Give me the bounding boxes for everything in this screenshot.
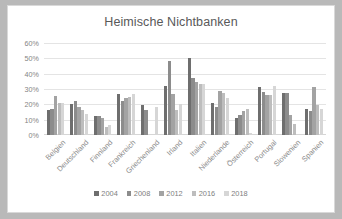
- bar-group-bars: [185, 43, 209, 135]
- bar-group-bars: [303, 43, 327, 135]
- x-axis-tick-label: Irland: [165, 138, 184, 157]
- y-axis-tick-label: 10%: [25, 115, 39, 124]
- bar[interactable]: [144, 110, 147, 135]
- bar-group: [232, 43, 256, 135]
- y-axis-tick-label: 30%: [25, 85, 39, 94]
- bar[interactable]: [61, 103, 64, 135]
- legend-label: 2016: [199, 189, 215, 198]
- x-axis: BelgienDeutschlandFinnlandFrankreichGrie…: [44, 136, 326, 188]
- bar-group: [185, 43, 209, 135]
- bar-group: [44, 43, 68, 135]
- bar-group-bars: [68, 43, 92, 135]
- legend-swatch-icon: [224, 191, 229, 196]
- bar[interactable]: [246, 109, 249, 135]
- bar-group-bars: [91, 43, 115, 135]
- chart-legend: 20042008201220162018: [8, 189, 334, 198]
- bar-group: [138, 43, 162, 135]
- legend-label: 2018: [231, 189, 247, 198]
- bar[interactable]: [108, 125, 111, 135]
- plot-area: [44, 43, 326, 135]
- legend-label: 2012: [166, 189, 182, 198]
- bar[interactable]: [249, 133, 252, 135]
- bar[interactable]: [179, 104, 182, 135]
- legend-swatch-icon: [159, 191, 164, 196]
- bar[interactable]: [132, 94, 135, 135]
- legend-label: 2008: [134, 189, 150, 198]
- bar-group-bars: [279, 43, 303, 135]
- bar[interactable]: [273, 86, 276, 135]
- bar-group-bars: [115, 43, 139, 135]
- bar-group: [209, 43, 233, 135]
- bar[interactable]: [320, 109, 323, 135]
- y-axis: 60%50%40%30%20%10%0%: [8, 39, 42, 139]
- y-axis-tick-label: 60%: [25, 39, 39, 48]
- bar[interactable]: [155, 107, 158, 135]
- chart-container: Heimische Nichtbanken 60%50%40%30%20%10%…: [7, 5, 335, 213]
- legend-item[interactable]: 2004: [94, 189, 117, 198]
- legend-item[interactable]: 2016: [192, 189, 215, 198]
- bar-group-bars: [256, 43, 280, 135]
- bar[interactable]: [202, 84, 205, 135]
- y-axis-tick-label: 20%: [25, 100, 39, 109]
- bar[interactable]: [293, 124, 296, 136]
- bar-group: [256, 43, 280, 135]
- y-axis-tick-label: 50%: [25, 54, 39, 63]
- bar-group: [68, 43, 92, 135]
- bar[interactable]: [226, 98, 229, 135]
- legend-label: 2004: [101, 189, 117, 198]
- bar-group-bars: [44, 43, 68, 135]
- bar-group-bars: [232, 43, 256, 135]
- bar-group: [303, 43, 327, 135]
- legend-swatch-icon: [192, 191, 197, 196]
- legend-item[interactable]: 2018: [224, 189, 247, 198]
- legend-item[interactable]: 2008: [127, 189, 150, 198]
- x-axis-tick-label: Italien: [188, 138, 208, 158]
- bar-group: [115, 43, 139, 135]
- bar-group: [279, 43, 303, 135]
- legend-swatch-icon: [94, 191, 99, 196]
- bar-group-bars: [162, 43, 186, 135]
- bar-group-bars: [209, 43, 233, 135]
- bar[interactable]: [85, 114, 88, 135]
- bar-group: [91, 43, 115, 135]
- legend-swatch-icon: [127, 191, 132, 196]
- legend-item[interactable]: 2012: [159, 189, 182, 198]
- x-axis-tick-label: Spanien: [300, 138, 326, 164]
- bar-group-bars: [138, 43, 162, 135]
- bar-group: [162, 43, 186, 135]
- y-axis-tick-label: 40%: [25, 69, 39, 78]
- chart-title: Heimische Nichtbanken: [8, 15, 334, 29]
- y-axis-tick-label: 0%: [29, 131, 39, 140]
